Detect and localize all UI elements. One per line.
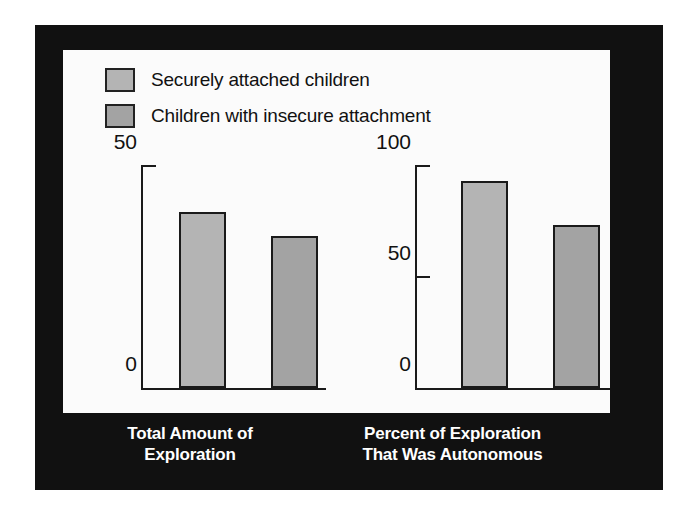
bar-left-insecure [271, 236, 318, 388]
legend-swatch-insecure [105, 104, 135, 128]
left-caption-line-1: Total Amount of [75, 423, 305, 444]
left-tick-label-0: 0 [95, 352, 137, 376]
left-bar-chart: 50 0 [101, 155, 336, 390]
legend-item-insecure: Children with insecure attachment [105, 98, 605, 134]
legend-label-secure: Securely attached children [151, 69, 370, 91]
left-caption-line-2: Exploration [75, 444, 305, 465]
bar-right-insecure [553, 225, 600, 388]
chart-frame: Securely attached children Children with… [35, 25, 663, 490]
left-tick-mark-50 [143, 165, 156, 167]
legend-item-secure: Securely attached children [105, 62, 605, 98]
bar-left-secure [179, 212, 226, 388]
legend-label-insecure: Children with insecure attachment [151, 105, 431, 127]
right-tick-mark-100 [417, 165, 430, 167]
right-caption-line-1: Percent of Exploration [320, 423, 585, 444]
left-y-axis [141, 165, 143, 390]
right-tick-mark-50 [417, 276, 430, 278]
left-x-axis [141, 388, 326, 390]
right-bar-chart: 100 50 0 [363, 155, 613, 390]
right-caption-line-2: That Was Autonomous [320, 444, 585, 465]
right-tick-label-100: 100 [357, 130, 411, 154]
left-tick-label-50: 50 [95, 130, 137, 154]
left-chart-caption: Total Amount of Exploration [75, 423, 305, 466]
legend-swatch-secure [105, 68, 135, 92]
bar-right-secure [461, 181, 508, 388]
right-tick-label-50: 50 [357, 241, 411, 265]
chart-panel: Securely attached children Children with… [63, 50, 610, 413]
right-chart-caption: Percent of Exploration That Was Autonomo… [320, 423, 585, 466]
right-tick-label-0: 0 [357, 352, 411, 376]
right-x-axis [415, 388, 610, 390]
figure-container: Securely attached children Children with… [0, 0, 690, 511]
chart-legend: Securely attached children Children with… [105, 62, 605, 134]
